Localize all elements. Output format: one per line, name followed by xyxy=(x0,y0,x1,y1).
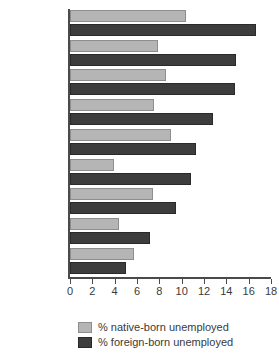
bar-native-born xyxy=(70,69,166,81)
x-axis-tick-label: 4 xyxy=(105,285,125,297)
bar-foreign-born xyxy=(70,173,191,185)
bar-foreign-born xyxy=(70,202,176,214)
x-axis-tick-label: 2 xyxy=(82,285,102,297)
x-axis-tick xyxy=(271,279,272,284)
bar-foreign-born xyxy=(70,232,150,244)
bar-native-born xyxy=(70,248,134,260)
bar-chart: 024681012141618 GermanySwedenFranceCzech… xyxy=(0,0,279,361)
legend-item-foreign: % foreign-born unemployed xyxy=(78,335,278,350)
x-axis-tick-label: 16 xyxy=(239,285,259,297)
x-axis-tick-label: 14 xyxy=(216,285,236,297)
bar-native-born xyxy=(70,129,171,141)
bar-native-born xyxy=(70,99,154,111)
bar-foreign-born xyxy=(70,143,196,155)
bar-foreign-born xyxy=(70,262,126,274)
bar-foreign-born xyxy=(70,54,236,66)
plot-area: 024681012141618 GermanySwedenFranceCzech… xyxy=(0,0,279,300)
x-axis-tick xyxy=(226,279,227,284)
bar-native-born xyxy=(70,10,186,22)
legend-item-native: % native-born unemployed xyxy=(78,320,278,335)
bar-native-born xyxy=(70,188,153,200)
bar-foreign-born xyxy=(70,24,256,36)
bar-native-born xyxy=(70,218,119,230)
x-axis-tick xyxy=(182,279,183,284)
legend-label-foreign: % foreign-born unemployed xyxy=(98,336,233,349)
legend-swatch-icon-native xyxy=(78,322,92,333)
x-axis-tick xyxy=(70,279,71,284)
chart-legend: % native-born unemployed % foreign-born … xyxy=(78,320,278,350)
bar-native-born xyxy=(70,40,158,52)
x-axis-tick-label: 6 xyxy=(127,285,147,297)
legend-swatch-icon-foreign xyxy=(78,337,92,348)
x-axis-tick-label: 0 xyxy=(60,285,80,297)
x-axis-tick xyxy=(92,279,93,284)
x-axis-tick xyxy=(204,279,205,284)
bar-foreign-born xyxy=(70,83,235,95)
x-axis-tick xyxy=(249,279,250,284)
bar-foreign-born xyxy=(70,113,213,125)
x-axis-tick-label: 10 xyxy=(172,285,192,297)
legend-label-native: % native-born unemployed xyxy=(98,321,229,334)
x-axis-tick xyxy=(159,279,160,284)
x-axis-tick-label: 18 xyxy=(261,285,279,297)
x-axis-tick-label: 8 xyxy=(149,285,169,297)
x-axis-line xyxy=(68,277,271,279)
x-axis-tick xyxy=(115,279,116,284)
bar-native-born xyxy=(70,159,114,171)
x-axis-tick-label: 12 xyxy=(194,285,214,297)
x-axis-tick xyxy=(137,279,138,284)
